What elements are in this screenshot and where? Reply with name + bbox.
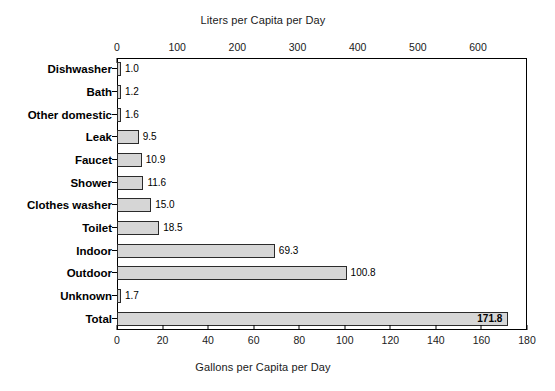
category-label: Total	[85, 311, 112, 327]
bottom-tick-mark	[344, 325, 345, 330]
bar-row: Other domestic1.6	[0, 107, 555, 123]
category-label: Leak	[86, 129, 112, 145]
bar-chart: Liters per Capita per Day 01002003004005…	[0, 0, 555, 391]
category-label: Indoor	[76, 243, 112, 259]
bottom-tick-mark	[253, 325, 254, 330]
category-label: Dishwasher	[47, 61, 112, 77]
bar	[117, 108, 121, 122]
bottom-tick-mark	[435, 325, 436, 330]
bar-value-label: 1.7	[125, 288, 139, 304]
bottom-tick-mark	[162, 325, 163, 330]
top-tick-label: 300	[289, 41, 307, 53]
bottom-tick-mark	[481, 325, 482, 330]
bar-value-label: 10.9	[146, 152, 165, 168]
bar-row: Total171.8	[0, 311, 555, 327]
bar-row: Toilet18.5	[0, 220, 555, 236]
category-label: Clothes washer	[27, 197, 112, 213]
bar-row: Outdoor100.8	[0, 265, 555, 281]
top-tick-label: 400	[349, 41, 367, 53]
category-label: Bath	[86, 84, 112, 100]
bottom-tick-mark	[299, 325, 300, 330]
bar	[117, 85, 121, 99]
bottom-tick-mark	[390, 325, 391, 330]
bar-row: Dishwasher1.0	[0, 61, 555, 77]
top-tick-label: 500	[409, 41, 427, 53]
bar	[117, 153, 142, 167]
category-label: Outdoor	[67, 265, 112, 281]
bottom-tick-label: 160	[473, 334, 491, 346]
bar	[117, 198, 151, 212]
top-tick-label: 200	[229, 41, 247, 53]
category-label: Faucet	[75, 152, 112, 168]
bar-row: Indoor69.3	[0, 243, 555, 259]
bar-row: Leak9.5	[0, 129, 555, 145]
bar-value-label: 18.5	[163, 220, 182, 236]
bar	[117, 266, 347, 280]
top-tick-label: 100	[168, 41, 186, 53]
bottom-tick-mark	[117, 325, 118, 330]
top-tick-label: 0	[114, 41, 120, 53]
bar-row: Faucet10.9	[0, 152, 555, 168]
bar-value-label: 11.6	[147, 175, 166, 191]
bottom-tick-label: 140	[427, 334, 445, 346]
bar	[117, 130, 139, 144]
bottom-tick-label: 100	[336, 334, 354, 346]
top-axis-title: Liters per Capita per Day	[28, 14, 498, 26]
category-label: Unknown	[60, 288, 112, 304]
category-label: Other domestic	[28, 107, 112, 123]
bar	[117, 221, 159, 235]
bottom-tick-label: 120	[382, 334, 400, 346]
bar-value-label: 1.0	[125, 61, 139, 77]
bottom-tick-mark	[208, 325, 209, 330]
bottom-tick-label: 180	[518, 334, 536, 346]
bottom-tick-label: 60	[248, 334, 260, 346]
bar-value-label: 15.0	[155, 197, 174, 213]
bar-row: Clothes washer15.0	[0, 197, 555, 213]
bar-value-label: 100.8	[351, 265, 376, 281]
category-label: Toilet	[82, 220, 112, 236]
bar-value-label: 1.2	[125, 84, 139, 100]
top-tick-label: 600	[469, 41, 487, 53]
bar-value-label: 69.3	[279, 243, 298, 259]
category-label: Shower	[70, 175, 112, 191]
bottom-tick-label: 80	[293, 334, 305, 346]
bottom-axis-title: Gallons per Capita per Day	[28, 361, 498, 373]
bar	[117, 289, 121, 303]
bar-value-label: 9.5	[143, 129, 157, 145]
bar-row: Shower11.6	[0, 175, 555, 191]
bar	[117, 62, 121, 76]
bottom-tick-label: 40	[202, 334, 214, 346]
bar-row: Unknown1.7	[0, 288, 555, 304]
bar	[117, 244, 275, 258]
bottom-tick-mark	[527, 325, 528, 330]
bar-row: Bath1.2	[0, 84, 555, 100]
bottom-tick-label: 0	[114, 334, 120, 346]
bar	[117, 312, 508, 326]
bottom-tick-label: 20	[157, 334, 169, 346]
bar	[117, 176, 143, 190]
bar-value-label: 1.6	[125, 107, 139, 123]
